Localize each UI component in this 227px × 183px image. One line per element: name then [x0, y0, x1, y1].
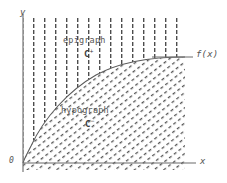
x-axis-label: x: [200, 157, 206, 166]
hypograph-label: hypograph: [61, 106, 109, 115]
origin-label: 0: [9, 157, 14, 165]
hypograph-symbol-superscript: −: [91, 117, 95, 124]
y-axis-label: y: [20, 8, 26, 17]
hypograph-symbol: C−: [85, 120, 94, 129]
figure-canvas: epigraph C+ hypograph C− y x f(x) 0: [0, 0, 227, 183]
epigraph-label: epigraph: [63, 36, 106, 45]
function-label: f(x): [196, 50, 218, 59]
diagram-svg: [0, 0, 227, 183]
epigraph-symbol: C+: [84, 50, 93, 59]
epigraph-symbol-superscript: +: [90, 47, 94, 54]
